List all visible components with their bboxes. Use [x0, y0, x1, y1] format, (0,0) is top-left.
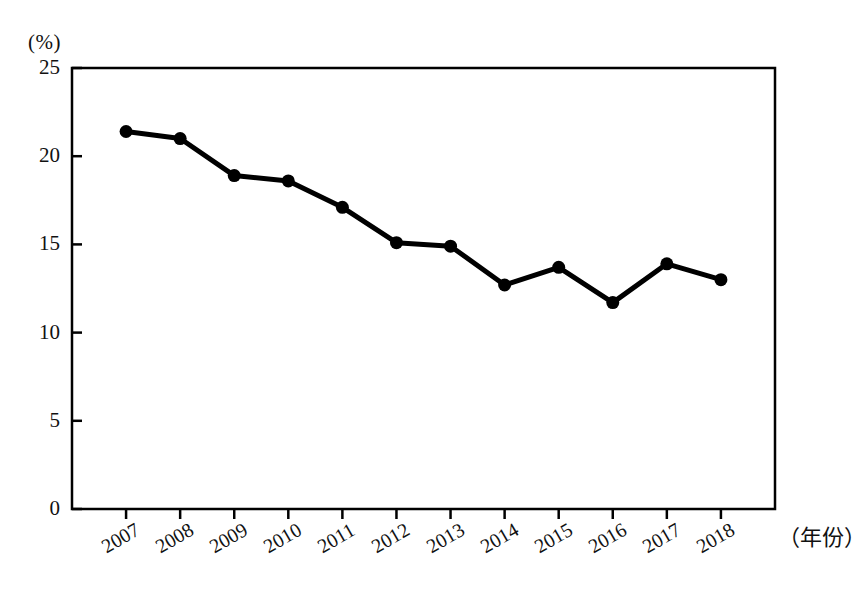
data-point-marker — [174, 132, 187, 145]
series-polyline — [126, 132, 721, 303]
data-point-markers — [120, 125, 728, 309]
data-series-line — [126, 132, 721, 303]
data-point-marker — [714, 273, 727, 286]
y-tick-label: 10 — [16, 322, 60, 343]
data-point-marker — [228, 169, 241, 182]
x-axis-name-label: （年份） — [778, 519, 866, 551]
line-chart: (%) 0510152025 2007200820092010201120122… — [0, 0, 867, 597]
data-point-marker — [336, 201, 349, 214]
data-point-marker — [552, 261, 565, 274]
y-axis-tick-marks — [72, 68, 82, 509]
y-tick-label: 20 — [16, 145, 60, 166]
x-axis-tick-marks — [126, 509, 721, 519]
data-point-marker — [606, 296, 619, 309]
data-point-marker — [120, 125, 133, 138]
data-point-marker — [390, 236, 403, 249]
data-point-marker — [444, 240, 457, 253]
chart-canvas — [0, 0, 867, 597]
data-point-marker — [660, 257, 673, 270]
y-tick-label: 15 — [16, 233, 60, 254]
data-point-marker — [498, 278, 511, 291]
y-tick-label: 0 — [16, 498, 60, 519]
y-tick-label: 25 — [16, 57, 60, 78]
y-tick-label: 5 — [16, 410, 60, 431]
data-point-marker — [282, 174, 295, 187]
